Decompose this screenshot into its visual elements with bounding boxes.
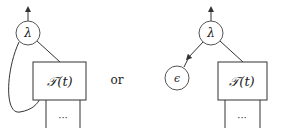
left-diagram: λ 𝒯(t) ··· <box>9 9 86 128</box>
right-term-label: 𝒯(t) <box>229 74 254 89</box>
right-continuation-ellipsis: ··· <box>237 112 247 123</box>
left-term-label: 𝒯(t) <box>47 74 72 89</box>
or-separator: or <box>111 73 124 87</box>
epsilon-label: ϵ <box>174 72 180 85</box>
right-lambda-label: λ <box>206 26 215 40</box>
left-lambda-label: λ <box>23 26 32 40</box>
diagram-canvas: λ 𝒯(t) ··· or λ ϵ 𝒯(t) ··· <box>0 0 282 135</box>
right-lambda-to-box-edge <box>220 41 243 62</box>
right-diagram: λ ϵ 𝒯(t) ··· <box>165 9 267 128</box>
left-continuation-ellipsis: ··· <box>58 112 68 123</box>
right-lambda-to-epsilon-edge-tail <box>184 57 189 67</box>
right-lambda-to-epsilon-edge <box>188 42 203 58</box>
left-lambda-to-box-edge <box>37 41 60 62</box>
